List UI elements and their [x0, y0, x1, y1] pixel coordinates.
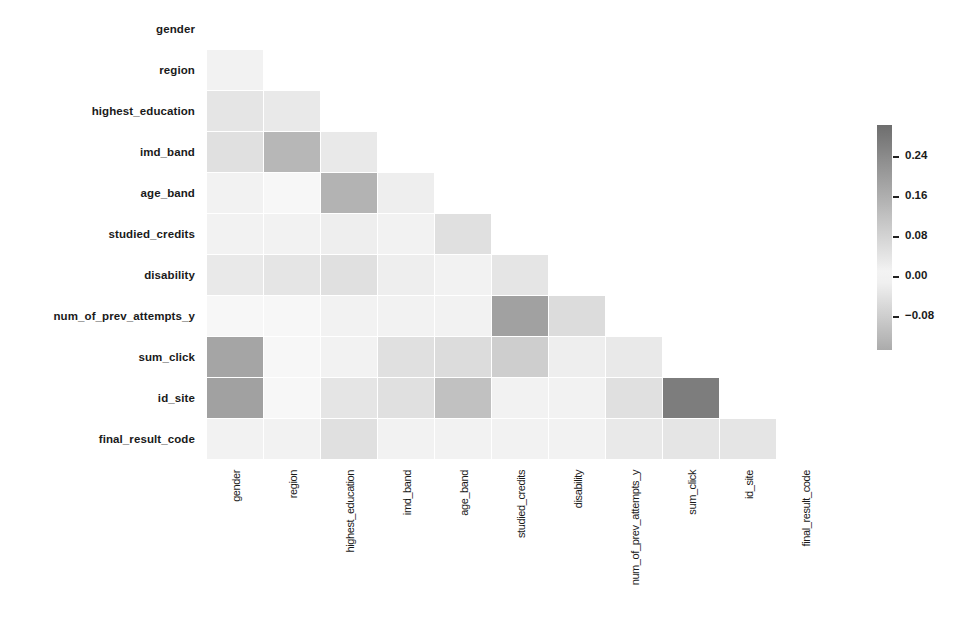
colorbar-tick-mark: [893, 236, 899, 238]
heatmap-cell: [207, 50, 264, 91]
heatmap-cell: [492, 419, 549, 460]
heatmap-cell: [606, 419, 663, 460]
colorbar-tick-label: 0.08: [905, 229, 927, 241]
heatmap-cell: [549, 296, 606, 337]
y-tick-label: final_result_code: [99, 433, 195, 445]
heatmap-cell: [264, 378, 321, 419]
y-tick-label: highest_education: [92, 105, 195, 117]
heatmap-cell: [720, 419, 777, 460]
x-tick-label: num_of_prev_attempts_y: [629, 470, 641, 585]
x-tick-label: studied_credits: [515, 470, 527, 538]
heatmap-cell: [321, 255, 378, 296]
colorbar-tick-label: 0.16: [905, 189, 927, 201]
heatmap-cell: [378, 337, 435, 378]
heatmap-cell: [378, 296, 435, 337]
x-tick-label: imd_band: [401, 470, 413, 515]
heatmap-cell: [321, 419, 378, 460]
heatmap-cell: [207, 91, 264, 132]
heatmap-cell: [321, 378, 378, 419]
x-tick-label: region: [287, 470, 299, 498]
heatmap-cell: [207, 378, 264, 419]
y-tick-label: num_of_prev_attempts_y: [53, 310, 195, 322]
x-tick-label: highest_education: [344, 470, 356, 553]
heatmap-cell: [264, 214, 321, 255]
x-tick-label: final_result_code: [800, 470, 812, 546]
heatmap-cell: [435, 337, 492, 378]
heatmap-cell: [492, 378, 549, 419]
x-tick-label: sum_click: [686, 470, 698, 515]
y-tick-label: sum_click: [138, 351, 195, 363]
colorbar-tick-mark: [893, 276, 899, 278]
heatmap-cell: [492, 296, 549, 337]
x-tick-label: age_band: [458, 470, 470, 516]
heatmap-cell: [264, 255, 321, 296]
y-tick-label: age_band: [141, 187, 195, 199]
heatmap-cell: [378, 173, 435, 214]
heatmap-cell: [492, 337, 549, 378]
heatmap-cell: [435, 255, 492, 296]
heatmap-cell: [321, 173, 378, 214]
colorbar-tick-mark: [893, 196, 899, 198]
heatmap-cell: [549, 378, 606, 419]
heatmap-cell: [264, 419, 321, 460]
heatmap-cell: [321, 296, 378, 337]
heatmap-cell: [663, 378, 720, 419]
y-tick-label: gender: [156, 23, 195, 35]
heatmap-cell: [378, 419, 435, 460]
colorbar-tick-mark: [893, 156, 899, 158]
heatmap-cell: [207, 419, 264, 460]
heatmap-cell: [378, 255, 435, 296]
x-tick-label: id_site: [743, 470, 755, 499]
heatmap-cell: [549, 337, 606, 378]
heatmap-cell: [264, 91, 321, 132]
colorbar-tick-label: 0.24: [905, 149, 927, 161]
x-tick-label: disability: [572, 470, 584, 508]
y-tick-label: region: [159, 64, 195, 76]
heatmap-cell: [264, 337, 321, 378]
heatmap-cell: [321, 214, 378, 255]
colorbar-tick-label: 0.00: [905, 269, 927, 281]
heatmap-cell: [378, 378, 435, 419]
heatmap-cell: [207, 337, 264, 378]
heatmap-cell: [435, 214, 492, 255]
heatmap-cell: [207, 173, 264, 214]
heatmap-cell: [435, 296, 492, 337]
heatmap-cell: [435, 378, 492, 419]
colorbar-tick-label: −0.08: [905, 309, 934, 321]
heatmap-cell: [264, 296, 321, 337]
heatmap-cell: [264, 173, 321, 214]
y-tick-label: id_site: [158, 392, 195, 404]
colorbar-tick-mark: [893, 316, 899, 318]
heatmap-cell: [663, 419, 720, 460]
colorbar: [877, 125, 892, 350]
y-tick-label: studied_credits: [109, 228, 196, 240]
heatmap-cell: [435, 419, 492, 460]
y-tick-label: disability: [144, 269, 195, 281]
heatmap-cell: [321, 337, 378, 378]
correlation-heatmap: genderregionhighest_educationimd_bandage…: [0, 0, 971, 618]
heatmap-cell: [264, 132, 321, 173]
heatmap-cell: [207, 132, 264, 173]
heatmap-cell: [606, 337, 663, 378]
heatmap-cell: [378, 214, 435, 255]
heatmap-cell: [549, 419, 606, 460]
y-tick-label: imd_band: [140, 146, 195, 158]
x-tick-label: gender: [230, 470, 242, 502]
heatmap-cell: [492, 255, 549, 296]
heatmap-cell: [207, 296, 264, 337]
heatmap-cell: [207, 214, 264, 255]
heatmap-cell: [207, 255, 264, 296]
heatmap-cell: [321, 132, 378, 173]
heatmap-cell: [606, 378, 663, 419]
